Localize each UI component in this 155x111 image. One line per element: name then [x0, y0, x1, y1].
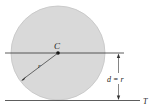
label-t: T: [143, 97, 148, 106]
label-r: r: [38, 62, 41, 70]
label-c: C: [54, 41, 61, 51]
diagram-canvas: C r d = r T: [0, 0, 155, 111]
label-d-equals-r: d = r: [107, 75, 124, 84]
dimension-arrow-down-icon: [117, 96, 120, 101]
dimension-arrow-up-icon: [117, 54, 120, 59]
